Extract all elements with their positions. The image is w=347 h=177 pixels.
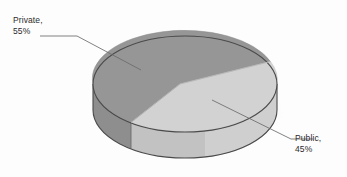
private-slice-label-name: Private, <box>13 15 43 26</box>
public-slice-label: Public, 45% <box>295 133 321 154</box>
private-slice-label-value: 55% <box>13 26 43 37</box>
pie-chart-figure: Private, 55% Public, 45% <box>0 0 347 177</box>
private-slice-label: Private, 55% <box>13 15 43 36</box>
public-slice-label-value: 45% <box>295 144 321 155</box>
public-slice-label-name: Public, <box>295 133 321 144</box>
